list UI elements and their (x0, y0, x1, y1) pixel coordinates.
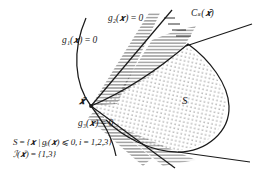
label-point-xbar: 𝒙̄ (79, 97, 85, 107)
label-set-definition: S = {𝒙 | gᵢ(𝒙) ⩽ 0, i = 1,2,3} (13, 138, 112, 147)
label-g2: g₂(𝒙) = 0 (108, 14, 143, 24)
ray-upper (186, 24, 252, 46)
constraint-set-figure: g₂(𝒙) = 0 g₁(𝒙) = 0 g₃(𝒙) = 0 Cₛ(𝒙̄) S 𝒙… (0, 0, 260, 172)
label-g1: g₁(𝒙) = 0 (62, 36, 97, 46)
label-active-set: ℐ(𝒙̄) = {1,3} (13, 150, 56, 159)
label-region-S: S (182, 95, 188, 107)
label-cone: Cₛ(𝒙̄) (191, 9, 214, 19)
point-xbar-marker (89, 104, 93, 108)
label-g3: g₃(𝒙) = 0 (78, 119, 113, 129)
